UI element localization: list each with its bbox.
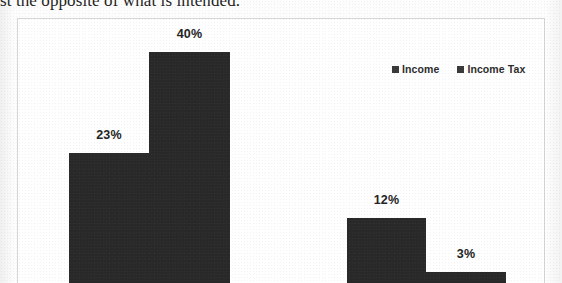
bar-label-income-group-2: 12%: [347, 193, 426, 207]
legend-item-income[interactable]: Income: [392, 63, 439, 75]
chart-legend: Income Income Tax: [392, 63, 525, 75]
legend-item-income-tax[interactable]: Income Tax: [457, 63, 525, 75]
bar-label-income-tax-group-1: 40%: [149, 27, 230, 41]
chart-frame: 23% 40% 12% 3% Income Income Tax: [17, 18, 545, 283]
legend-label-income-tax: Income Tax: [467, 63, 525, 75]
scanned-page: st the opposite of what is intended. 23%…: [0, 0, 562, 283]
bar-label-income-group-1: 23%: [69, 128, 149, 142]
bar-income-tax-group-1: [149, 52, 230, 283]
legend-label-income: Income: [402, 63, 439, 75]
bar-income-group-2: [347, 218, 426, 283]
bar-income-tax-group-2: [426, 272, 506, 283]
chart-plot-area: 23% 40% 12% 3% Income Income Tax: [18, 19, 544, 283]
square-marker-icon: [457, 66, 464, 73]
square-marker-icon: [392, 66, 399, 73]
bar-label-income-tax-group-2: 3%: [426, 247, 506, 261]
bar-income-group-1: [69, 153, 149, 283]
page-body-text: st the opposite of what is intended.: [0, 0, 562, 11]
